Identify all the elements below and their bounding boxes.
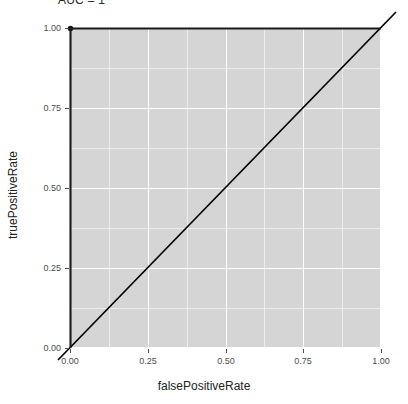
y-tick-mark [65,268,69,269]
x-axis-title: falsePositiveRate [0,379,408,393]
roc-plot-figure: AUC = 1 [0,0,408,404]
gridline-major-horizontal [70,268,381,269]
y-tick-mark [65,348,69,349]
y-tick-mark [65,108,69,109]
gridline-major-horizontal [70,108,381,109]
x-tick-label: 1.00 [372,356,390,366]
y-tick-label: 0.25 [43,263,61,273]
y-tick-label: 0.75 [43,103,61,113]
page-title: AUC = 1 [58,0,105,7]
x-tick-label: 0.50 [217,356,235,366]
x-tick-mark [70,349,71,353]
y-tick-label: 0.50 [43,183,61,193]
x-tick-mark [303,349,304,353]
x-tick-mark [226,349,227,353]
y-tick-label: 1.00 [43,23,61,33]
y-tick-mark [65,28,69,29]
y-axis-title: truePositiveRate [6,120,20,270]
y-tick-label: 0.00 [43,343,61,353]
x-tick-label: 0.00 [61,356,79,366]
gridline-major-horizontal [70,188,381,189]
x-tick-label: 0.75 [294,356,312,366]
plot-panel [70,28,381,348]
y-tick-mark [65,188,69,189]
gridline-major-horizontal [70,347,381,348]
x-tick-label: 0.25 [139,356,157,366]
x-tick-mark [148,349,149,353]
x-tick-mark [381,349,382,353]
gridline-major-horizontal [70,28,381,29]
